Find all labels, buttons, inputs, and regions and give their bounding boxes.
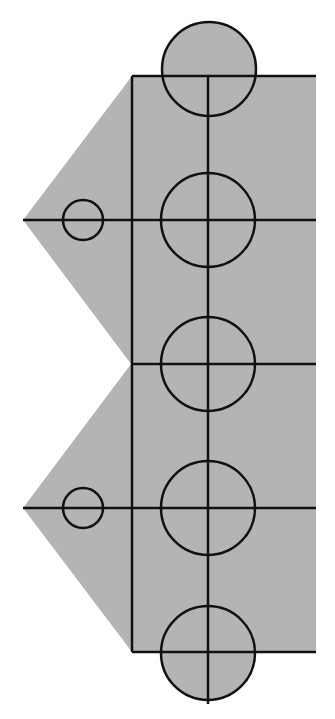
geometric-diagram <box>0 0 335 719</box>
